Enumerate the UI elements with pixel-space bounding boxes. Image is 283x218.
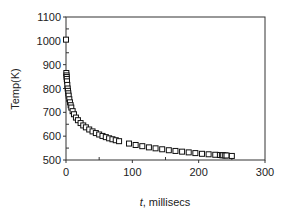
plot-frame (66, 17, 265, 160)
x-tick-label: 300 (256, 166, 274, 178)
data-point (117, 139, 122, 144)
y-tick-label: 700 (43, 106, 61, 118)
data-point (224, 153, 229, 158)
data-point (180, 149, 185, 154)
y-axis: 50060070080090010001100 (37, 11, 69, 166)
x-tick-label: 200 (189, 166, 207, 178)
y-tick-label: 600 (43, 130, 61, 142)
data-point (166, 148, 171, 153)
x-tick-label: 100 (123, 166, 141, 178)
data-point (140, 144, 145, 149)
data-point (153, 146, 158, 151)
data-point (229, 153, 234, 158)
x-tick-label: 0 (63, 166, 69, 178)
data-point (64, 37, 69, 42)
data-point (206, 152, 211, 157)
data-point (173, 148, 178, 153)
y-tick-label: 1000 (37, 35, 61, 47)
data-point (160, 147, 165, 152)
data-point (146, 145, 151, 150)
data-points (64, 37, 235, 158)
data-point (199, 151, 204, 156)
data-point (193, 151, 198, 156)
data-point (127, 141, 132, 146)
y-tick-label: 1100 (37, 11, 61, 23)
plot-border (66, 17, 265, 160)
x-axis-label: t, millisecs (140, 196, 191, 208)
data-point (186, 150, 191, 155)
chart: 50060070080090010001100 0100200300 Temp(… (0, 0, 283, 218)
y-tick-label: 500 (43, 154, 61, 166)
y-axis-label: Temp(K) (9, 68, 21, 110)
data-point (133, 142, 138, 147)
y-tick-label: 800 (43, 83, 61, 95)
y-tick-label: 900 (43, 59, 61, 71)
